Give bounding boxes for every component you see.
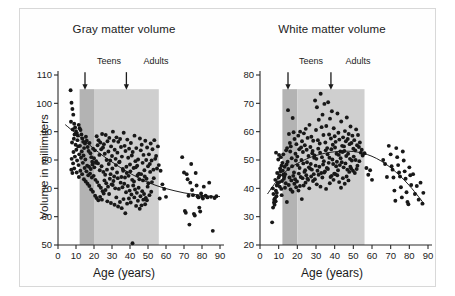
data-point [140, 143, 144, 147]
data-point [152, 138, 156, 142]
data-point [79, 133, 83, 137]
y-tick-label: 50 [243, 154, 254, 165]
data-point [336, 112, 340, 116]
data-point [158, 197, 162, 201]
data-point [84, 135, 88, 139]
data-point [96, 161, 100, 165]
data-point [134, 165, 138, 169]
data-point [123, 144, 127, 148]
y-tick-label: 70 [243, 98, 254, 109]
data-point [350, 159, 354, 163]
x-tick-label: 60 [367, 250, 378, 261]
data-point [406, 202, 410, 206]
data-point [282, 177, 286, 181]
data-point [336, 131, 340, 135]
data-point [341, 135, 345, 139]
data-point [389, 152, 393, 156]
data-point [89, 167, 93, 171]
data-point [309, 174, 313, 178]
data-point [131, 184, 135, 188]
data-point [156, 144, 160, 148]
data-point [129, 141, 133, 145]
data-point [70, 101, 74, 105]
data-point [187, 223, 191, 227]
data-point [116, 176, 120, 180]
x-tick-label: 70 [179, 250, 190, 261]
data-point [320, 155, 324, 159]
data-point [160, 182, 164, 186]
data-point [139, 172, 143, 176]
data-point [330, 174, 334, 178]
data-point [117, 187, 121, 191]
y-tick-label: 20 [243, 239, 254, 250]
data-point [324, 148, 328, 152]
x-tick-label: 0 [55, 250, 60, 261]
data-point [339, 120, 343, 124]
data-point [112, 174, 116, 178]
data-point [144, 158, 148, 162]
data-point [105, 199, 109, 203]
data-point [354, 158, 358, 162]
data-point [70, 157, 74, 161]
data-point [330, 109, 334, 113]
data-point [77, 163, 81, 167]
data-point [124, 149, 128, 153]
data-point [319, 92, 323, 96]
data-point [316, 169, 320, 173]
data-point [392, 176, 396, 180]
data-point [211, 229, 215, 233]
data-point [110, 154, 114, 158]
data-point [288, 150, 292, 154]
data-point [133, 188, 137, 192]
data-point [115, 151, 119, 155]
x-tick-label: 30 [311, 250, 322, 261]
data-point [309, 162, 313, 166]
data-point [273, 203, 277, 207]
data-point [281, 152, 285, 156]
data-point [72, 150, 76, 154]
data-point [407, 165, 411, 169]
data-point [340, 160, 344, 164]
data-point [75, 159, 79, 163]
data-point [148, 170, 152, 174]
data-point [132, 195, 136, 199]
data-point [290, 156, 294, 160]
data-point [354, 127, 358, 131]
data-point [277, 180, 281, 184]
data-point [119, 181, 123, 185]
data-point [274, 151, 278, 155]
data-point [291, 174, 295, 178]
data-point [356, 133, 360, 137]
data-point [111, 179, 115, 183]
data-point [133, 134, 137, 138]
data-point [326, 167, 330, 171]
data-point [352, 138, 356, 142]
data-point [357, 159, 361, 163]
data-point [118, 137, 122, 141]
data-point [83, 157, 87, 161]
data-point [75, 171, 79, 175]
data-point [288, 141, 292, 145]
x-tick-label: 40 [125, 250, 136, 261]
data-point [143, 139, 147, 143]
data-point [128, 189, 132, 193]
data-point [300, 139, 304, 143]
data-point [99, 186, 103, 190]
data-point [151, 147, 155, 151]
data-point [304, 181, 308, 185]
data-point [304, 127, 308, 131]
data-point [287, 183, 291, 187]
data-point [355, 164, 359, 168]
data-point [125, 202, 129, 206]
data-point [411, 172, 415, 176]
data-point [317, 173, 321, 177]
data-point [138, 207, 142, 211]
data-point [285, 146, 289, 150]
data-point [148, 162, 152, 166]
data-point [328, 181, 332, 185]
data-point [73, 155, 77, 159]
data-point [274, 199, 278, 203]
data-point [71, 113, 75, 117]
x-tick-label: 20 [89, 250, 100, 261]
x-tick-label: 50 [348, 250, 359, 261]
